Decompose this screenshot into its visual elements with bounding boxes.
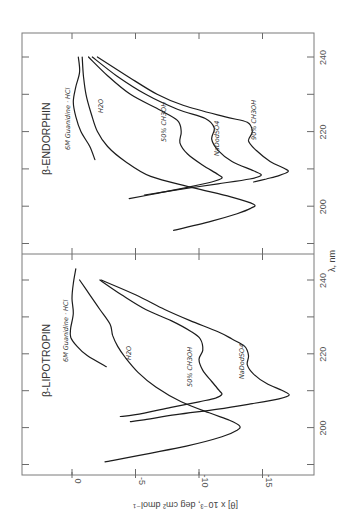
theta-tick-label: 0 xyxy=(73,478,83,483)
label-nadodso4-top: NaDodSO4 xyxy=(213,121,221,156)
panel-beta-lipotropin: 200220240 xyxy=(22,254,328,475)
theta-tick-label: -5 xyxy=(137,477,147,485)
label-50meoh-top: 50% CH3OH xyxy=(160,102,168,142)
wavelength-axis-title: λ, nm xyxy=(327,250,337,272)
label-nadodso4-bottom: NaDodSO4 xyxy=(238,344,246,379)
cd-curve-h2o xyxy=(82,57,255,230)
label-h2o-top: H2O xyxy=(97,99,105,113)
wavelength-tick-label: 200 xyxy=(318,199,328,214)
label-guanidine-bottom: 6M Guanidine · HCl xyxy=(62,299,70,362)
theta-axis-title: [θ] x 10⁻³, deg cm² dmol⁻¹ xyxy=(133,500,238,510)
cd-curve-90-ch3oh xyxy=(97,57,288,182)
label-90meoh-top: 90% CH3OH xyxy=(250,100,258,140)
theta-axis: 0-5-10-15 xyxy=(72,472,274,488)
panel-title-endorphin: β-ENDORPHIN xyxy=(40,102,52,175)
panel-title-lipotropin: β-LIPOTROPIN xyxy=(40,324,52,397)
label-h2o-bottom: H2O xyxy=(125,346,133,360)
wavelength-tick-label: 200 xyxy=(318,421,328,436)
theta-tick-label: -10 xyxy=(200,474,210,487)
wavelength-tick-label: 220 xyxy=(318,347,328,362)
wavelength-tick-label: 240 xyxy=(318,50,328,65)
cd-spectra-figure: 200220240 200220240 0-5-10-15 β-ENDORPHI… xyxy=(0,0,356,530)
wavelength-tick-label: 240 xyxy=(318,273,328,288)
label-guanidine-top: 6M Guanidine · HCl xyxy=(64,87,72,150)
label-50meoh-bottom: 50% CH3OH xyxy=(186,347,194,387)
cd-curve-6m-guanidine-hcl xyxy=(70,269,106,367)
cd-curve-6m-guanidine-hcl xyxy=(73,57,95,160)
wavelength-tick-label: 220 xyxy=(318,125,328,140)
cd-curve-nadodso4 xyxy=(92,57,261,195)
theta-tick-label: -15 xyxy=(264,474,274,487)
